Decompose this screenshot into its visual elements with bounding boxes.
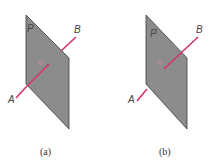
intersection-point-a [47,64,49,66]
point-a-label-b: A [127,94,135,105]
point-a-label-a: A [7,94,15,105]
figure: P B A Q (a) P B A Q (b) [0,0,208,167]
line-ab-front-a [16,86,27,98]
panel-b: P B A Q (b) [127,15,203,158]
plane-label-b: P [150,28,157,39]
line-ab-upper-a [61,37,76,51]
caption-a: (a) [40,146,51,158]
intersection-point-b [164,67,166,69]
intersection-label-a: Q [38,59,43,65]
line-ab-back-b [137,89,147,101]
point-b-label-a: B [74,24,81,35]
intersection-label-b: Q [157,59,162,65]
panel-a: P B A Q (a) [7,15,81,158]
point-b-label-b: B [196,24,203,35]
plane-label-a: P [27,23,34,34]
caption-b: (b) [159,146,171,158]
